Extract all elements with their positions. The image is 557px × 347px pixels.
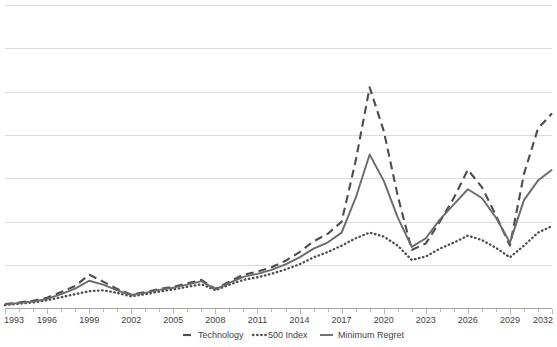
x-axis-tick-label: 2005 <box>163 315 183 325</box>
x-axis-tick-label: 2002 <box>121 315 141 325</box>
x-axis-tick-label: 2008 <box>205 315 225 325</box>
x-axis-tick-label: 2017 <box>332 315 352 325</box>
chart-container: 1993199619992002200520082011201420172020… <box>0 0 557 347</box>
x-axis-tick-label: 1999 <box>79 315 99 325</box>
legend-label: Technology <box>198 330 244 340</box>
series-line-technology <box>5 87 552 304</box>
legend-label: Minimum Regret <box>338 330 405 340</box>
series-line-minimum-regret <box>5 155 552 305</box>
x-axis-tick-label: 1996 <box>37 315 57 325</box>
x-axis-tick-label: 2029 <box>500 315 520 325</box>
legend-label: 500 Index <box>268 330 308 340</box>
x-axis-tick-label: 2032 <box>533 315 553 325</box>
x-axis-tick-label: 2011 <box>248 315 267 325</box>
x-axis-tick-label: 2023 <box>416 315 436 325</box>
x-axis-tick-label: 2014 <box>290 315 310 325</box>
x-axis-tick-label: 2026 <box>458 315 478 325</box>
series-lines <box>5 87 552 305</box>
chart-legend: Technology500 IndexMinimum Regret <box>183 330 405 340</box>
gridlines <box>5 6 552 266</box>
x-axis-tick-label: 2020 <box>374 315 394 325</box>
line-chart: 1993199619992002200520082011201420172020… <box>0 0 557 347</box>
x-axis-ticks <box>6 309 553 314</box>
x-axis-tick-label: 1993 <box>4 315 24 325</box>
x-axis-labels: 1993199619992002200520082011201420172020… <box>4 315 553 325</box>
